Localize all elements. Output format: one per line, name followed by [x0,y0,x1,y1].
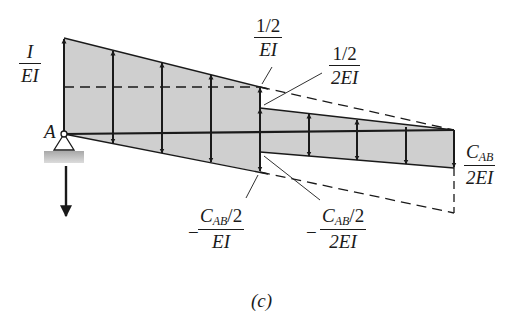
label-mid-bottom-left: CAB/2 EI [198,206,244,251]
label-mid-bottom-right: CAB/2 2EI [320,206,366,251]
point-label-a: A [44,122,56,141]
figure-c: I EI A 1/2 EI 1/2 2EI CAB 2EI − CAB/2 EI… [0,0,530,327]
figure-caption: (c) [251,290,272,312]
label-mid-top: 1/2 EI [254,16,282,59]
label-mid-top-right: 1/2 2EI [329,44,360,87]
label-left-top: I EI [19,42,41,85]
label-mid-bottom-right-sign: − [306,222,317,244]
leader-line [264,73,322,105]
leader-line [264,156,320,200]
label-right-end: CAB 2EI [464,142,495,187]
leader-line [262,67,272,84]
leader-line [246,175,258,198]
